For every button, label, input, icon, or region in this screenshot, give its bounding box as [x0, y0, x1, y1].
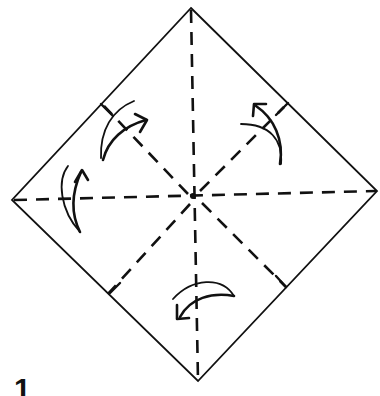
crease-lower-right-midline [202, 203, 286, 287]
tick-upper-right-edge [276, 103, 288, 115]
tick-upper-left-edge [101, 104, 113, 116]
step-number: 1 [14, 374, 31, 396]
bottom-fold-arrow-icon [173, 282, 234, 319]
crease-lower-left-midline [108, 204, 190, 294]
upper-right-fold-arrow-icon [241, 104, 281, 164]
center-point [190, 193, 196, 199]
tick-lower-right-edge [276, 276, 286, 287]
origami-diagram [0, 0, 380, 396]
